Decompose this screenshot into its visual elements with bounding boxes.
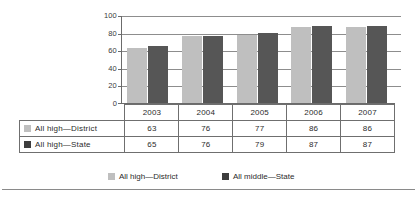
cell-district-2006: 86 — [287, 121, 341, 137]
bar-group-2003 — [122, 16, 177, 103]
cell-district-2005: 77 — [233, 121, 287, 137]
bar-district-2003 — [127, 48, 147, 103]
legend-item-state: All middle—State — [222, 172, 294, 182]
series-swatch-icon-district — [24, 125, 31, 132]
cell-state-2007: 87 — [341, 137, 395, 153]
bar-state-2007 — [367, 26, 387, 103]
y-tick-label-20: 20 — [91, 82, 117, 90]
cell-district-2007: 86 — [341, 121, 395, 137]
bar-group-2005 — [232, 16, 287, 103]
y-tick-label-60: 60 — [91, 47, 117, 55]
bar-district-2004 — [182, 36, 202, 103]
series-swatch-icon-state — [24, 141, 31, 148]
table-corner-cell — [20, 105, 125, 121]
legend-label-state: All middle—State — [233, 172, 294, 181]
cell-state-2005: 79 — [233, 137, 287, 153]
bottom-divider — [2, 189, 415, 190]
table-row: All high—District 63 76 77 86 86 — [20, 121, 395, 137]
cell-state-2003: 65 — [125, 137, 179, 153]
bar-chart-figure: 100 80 60 40 20 0 — [0, 0, 417, 200]
cell-state-2006: 87 — [287, 137, 341, 153]
table-row: All high—State 65 76 79 87 87 — [20, 137, 395, 153]
y-axis: 100 80 60 40 20 0 — [89, 16, 117, 104]
bar-series-container — [122, 16, 395, 103]
legend-swatch-icon-state — [222, 173, 229, 180]
bar-district-2006 — [291, 27, 311, 103]
y-tick-label-100: 100 — [91, 12, 117, 20]
y-tick-label-40: 40 — [91, 65, 117, 73]
plot-area — [121, 16, 395, 104]
bar-state-2006 — [312, 26, 332, 103]
data-table: 2003 2004 2005 2006 2007 All high—Distri… — [19, 104, 395, 153]
cell-state-2004: 76 — [179, 137, 233, 153]
bar-district-2007 — [346, 27, 366, 103]
bar-state-2004 — [203, 36, 223, 103]
bar-group-2006 — [286, 16, 341, 103]
legend-item-district: All high—District — [108, 172, 178, 182]
row-header-district: All high—District — [20, 121, 125, 137]
column-header-2005: 2005 — [233, 105, 287, 121]
column-header-2003: 2003 — [125, 105, 179, 121]
row-header-state: All high—State — [20, 137, 125, 153]
cell-district-2004: 76 — [179, 121, 233, 137]
column-header-2004: 2004 — [179, 105, 233, 121]
bar-state-2003 — [148, 46, 168, 103]
y-tick-label-80: 80 — [91, 30, 117, 38]
table-row-headers: 2003 2004 2005 2006 2007 — [20, 105, 395, 121]
row-header-state-label: All high—State — [35, 140, 91, 149]
row-header-district-label: All high—District — [35, 124, 97, 133]
column-header-2007: 2007 — [341, 105, 395, 121]
bar-group-2004 — [177, 16, 232, 103]
cell-district-2003: 63 — [125, 121, 179, 137]
column-header-2006: 2006 — [287, 105, 341, 121]
legend-swatch-icon-district — [108, 173, 115, 180]
chart-legend: All high—District All middle—State — [108, 172, 338, 184]
bar-group-2007 — [341, 16, 396, 103]
bar-district-2005 — [237, 35, 257, 103]
bar-state-2005 — [258, 33, 278, 103]
legend-label-district: All high—District — [119, 172, 178, 181]
